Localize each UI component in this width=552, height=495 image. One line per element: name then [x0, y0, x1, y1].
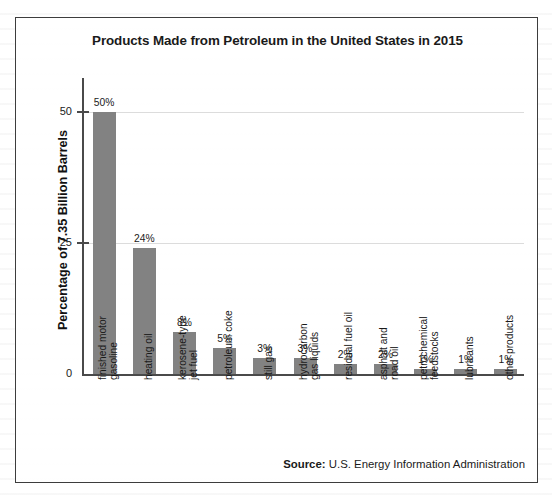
x-axis-label: lubricants	[464, 336, 475, 380]
x-axis-label: other products	[504, 315, 515, 380]
x-axis-label: petrochemical feedstocks	[418, 317, 441, 380]
x-axis-label: petroleum coke	[223, 310, 234, 380]
gridline	[82, 112, 524, 113]
x-axis-label: asphalt and road oil	[378, 327, 401, 380]
x-axis-label: kerosene-type jet fuel	[177, 315, 200, 380]
x-axis-label: finished motor gasoline	[97, 316, 120, 380]
source-label: Source:	[283, 458, 325, 470]
y-axis-title: Percentage of 7.35 Billion Barrels	[56, 105, 70, 355]
plot-area: 02550 50%24%8%5%3%3%2%2%1%1%1% finished …	[82, 86, 524, 374]
y-tick-mark	[77, 111, 89, 112]
bar-value-label: 24%	[120, 233, 168, 244]
y-tick-label: 0	[32, 367, 72, 379]
y-tick-label: 50	[32, 105, 72, 117]
x-axis-label: still gas	[263, 346, 274, 380]
bar-value-label: 50%	[80, 97, 128, 108]
x-axis-label: residual fuel oil	[343, 312, 354, 380]
source-line: Source: U.S. Energy Information Administ…	[283, 458, 525, 470]
y-tick-mark	[77, 242, 89, 243]
figure-frame: Products Made from Petroleum in the Unit…	[15, 17, 538, 483]
x-axis-label: heating oil	[143, 334, 154, 380]
chart-title: Products Made from Petroleum in the Unit…	[16, 33, 539, 48]
source-text: U.S. Energy Information Administration	[329, 458, 525, 470]
y-tick-label: 25	[32, 236, 72, 248]
y-axis-line	[82, 78, 84, 374]
x-axis-label: hydrocarbon gas liquids	[298, 323, 321, 380]
